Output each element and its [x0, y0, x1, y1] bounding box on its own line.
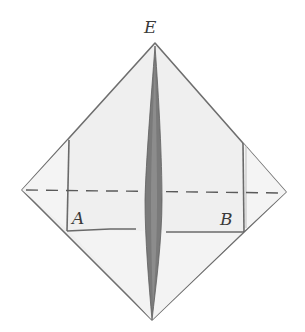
origami-diagram — [0, 0, 305, 332]
left-outer-flap — [22, 140, 68, 230]
label-a: A — [72, 210, 84, 227]
label-e: E — [144, 19, 156, 36]
right-outer-flap — [243, 143, 286, 232]
label-b: B — [220, 211, 233, 228]
right-flap-edge — [243, 143, 244, 232]
